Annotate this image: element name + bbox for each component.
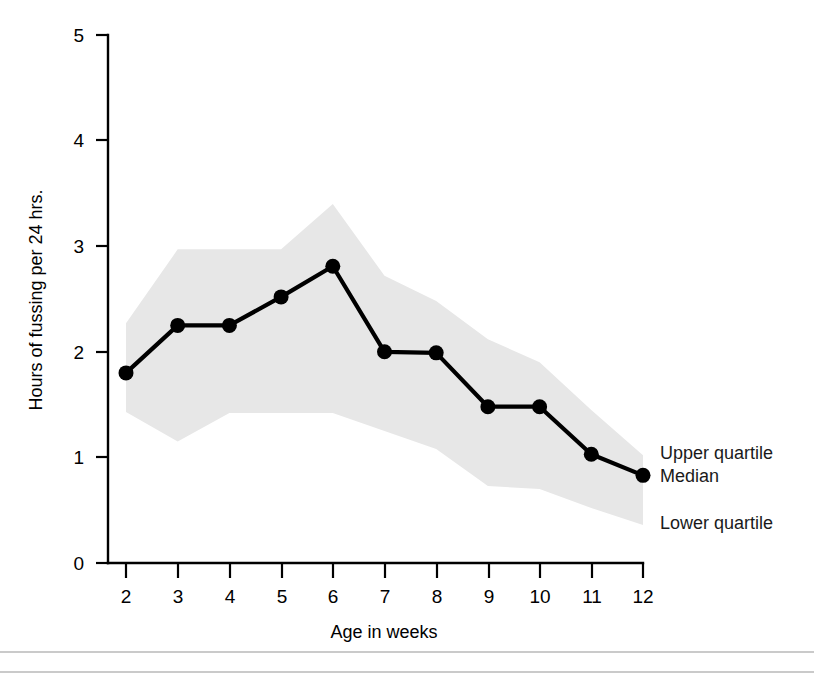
- x-tick-label-6: 6: [328, 586, 339, 607]
- median-data-point: [170, 318, 185, 333]
- x-axis-title: Age in weeks: [330, 622, 437, 642]
- y-tick-label-0: 0: [73, 553, 84, 574]
- median-data-point: [532, 399, 547, 414]
- figure-root: 5 4 3 2 1 0 2 3 4 5 6 7 8 9 10 11 12: [0, 0, 814, 674]
- legend-label-lower-quartile: Lower quartile: [660, 513, 773, 533]
- x-tick-label-2: 2: [121, 586, 132, 607]
- median-data-point: [325, 259, 340, 274]
- median-data-point: [584, 447, 599, 462]
- y-tick-label-4: 4: [73, 130, 84, 151]
- median-data-point: [429, 345, 444, 360]
- x-tick-label-8: 8: [432, 586, 443, 607]
- median-data-point: [222, 318, 237, 333]
- y-tick-label-2: 2: [73, 342, 84, 363]
- x-tick-label-4: 4: [225, 586, 236, 607]
- x-tick-label-10: 10: [529, 586, 550, 607]
- y-tick-label-3: 3: [73, 236, 84, 257]
- x-tick-label-5: 5: [277, 586, 288, 607]
- x-tick-label-7: 7: [380, 586, 391, 607]
- median-data-point: [636, 468, 651, 483]
- y-axis-title: Hours of fussing per 24 hrs.: [26, 189, 46, 410]
- x-tick-label-9: 9: [484, 586, 495, 607]
- y-tick-label-1: 1: [73, 447, 84, 468]
- y-tick-label-5: 5: [73, 25, 84, 46]
- median-data-point: [480, 399, 495, 414]
- median-data-point: [119, 365, 134, 380]
- x-tick-label-3: 3: [173, 586, 184, 607]
- fussing-hours-line-chart: 5 4 3 2 1 0 2 3 4 5 6 7 8 9 10 11 12: [0, 0, 814, 674]
- median-data-point: [274, 289, 289, 304]
- x-tick-label-12: 12: [632, 586, 653, 607]
- median-data-point: [377, 344, 392, 359]
- legend-label-median: Median: [660, 466, 719, 486]
- legend-label-upper-quartile: Upper quartile: [660, 443, 773, 463]
- x-tick-label-11: 11: [582, 586, 602, 607]
